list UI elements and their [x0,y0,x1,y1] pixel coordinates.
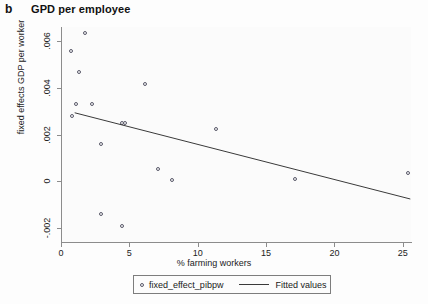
data-point [74,102,78,106]
y-tick [57,41,61,42]
data-point [123,121,127,125]
y-axis-line [61,27,62,243]
x-tick [129,243,130,247]
data-point [99,212,103,216]
x-tick-label: 5 [127,248,132,258]
data-point [77,70,81,74]
y-tick [57,228,61,229]
panel-label: b [5,2,12,16]
line-marker-icon [239,284,269,285]
y-tick-label-text: .002 [42,126,52,144]
x-tick [266,243,267,247]
data-point [83,31,87,35]
data-point [120,224,124,228]
x-tick [334,243,335,247]
data-point [99,142,103,146]
data-point [143,82,147,86]
x-tick [403,243,404,247]
data-point [156,167,160,171]
x-tick-label: 10 [193,248,203,258]
y-tick [57,135,61,136]
y-tick-label-text: 0 [42,179,52,184]
y-axis-title: fixed effects GDP per worker [16,12,26,142]
data-point [70,114,74,118]
x-tick-label: 15 [261,248,271,258]
x-tick-label: 0 [58,248,63,258]
x-axis-title: % farming workers [0,258,428,268]
y-tick-label-text: .006 [42,32,52,50]
y-tick-label-text: -.002 [42,218,52,239]
data-point [90,102,94,106]
data-point [406,171,410,175]
legend-item-scatter: fixed_effect_pibpw [134,280,223,290]
data-point [293,177,297,181]
chart-title: GPD per employee [31,3,130,15]
circle-marker-icon [140,283,144,287]
x-tick-label: 25 [398,248,408,258]
x-tick [198,243,199,247]
y-tick-label-text: .004 [42,79,52,97]
chart-legend: fixed_effect_pibpw Fitted values [133,275,331,294]
data-point [69,49,73,53]
data-point [170,178,174,182]
legend-item-line: Fitted values [223,280,326,290]
data-point [214,127,218,131]
y-tick [57,181,61,182]
y-tick [57,88,61,89]
x-tick [61,243,62,247]
legend-label-scatter: fixed_effect_pibpw [149,280,223,290]
plot-area [61,27,411,242]
legend-label-line: Fitted values [275,280,326,290]
chart-root: b GPD per employee .006.004.0020-.002 05… [0,0,428,304]
x-tick-label: 20 [329,248,339,258]
x-axis-line [61,242,412,243]
